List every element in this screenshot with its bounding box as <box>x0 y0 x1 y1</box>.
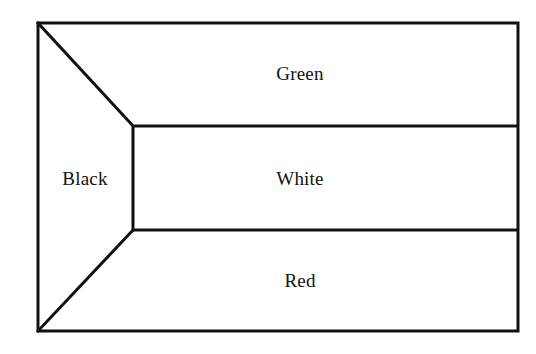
green-band-label: Green <box>276 64 323 83</box>
red-band-label: Red <box>284 271 315 290</box>
black-hoist-label: Black <box>62 169 107 188</box>
flag-diagram-figure: Green White Red Black <box>0 0 536 354</box>
white-band-label: White <box>276 169 323 188</box>
white-band-region <box>133 126 518 230</box>
